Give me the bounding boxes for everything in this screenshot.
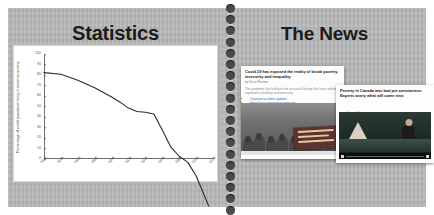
chart-y-tick: 10 <box>37 147 44 151</box>
slide-statistics: Statistics Percentage of world populatio… <box>8 8 223 207</box>
binding-hole <box>226 4 235 13</box>
binding-hole <box>226 105 235 114</box>
binding-hole <box>226 15 235 24</box>
protest-crowd-photo <box>241 103 344 155</box>
chart-x-tick: 2020 <box>209 157 217 165</box>
news-clipping-poverty[interactable]: Covid-19 has exposed the reality of brut… <box>241 66 344 159</box>
protest-banner <box>293 126 338 150</box>
binding-hole <box>226 26 235 35</box>
chart-y-tick: 60 <box>37 94 44 98</box>
photo-caption <box>241 151 344 155</box>
chart-y-tick: 20 <box>37 136 44 140</box>
binding-hole <box>226 172 235 181</box>
binding-hole <box>226 127 235 136</box>
chart-y-tick: 90 <box>37 63 44 67</box>
anchor-desk <box>339 139 431 152</box>
page-title-statistics: Statistics <box>8 22 223 45</box>
chart-line-series <box>44 54 213 215</box>
binding-hole <box>226 71 235 80</box>
chart-y-tick: 40 <box>37 115 44 119</box>
binding-hole <box>226 161 235 170</box>
news-anchor-video[interactable] <box>339 112 431 159</box>
chart-y-tick: 50 <box>37 105 44 109</box>
article-byline: by Kevin Farmer <box>245 81 340 85</box>
binding-hole <box>226 82 235 91</box>
video-player-controls[interactable] <box>339 153 431 159</box>
slide-the-news: The News Covid-19 has exposed the realit… <box>223 8 426 207</box>
chart-y-axis-label: Percentage of world population living in… <box>16 75 21 153</box>
chart-y-tick: 100 <box>35 52 44 56</box>
article-body: The pandemic has laid bare the structura… <box>245 87 340 95</box>
page-title-the-news: The News <box>223 23 426 45</box>
binding-hole <box>226 60 235 69</box>
binding-hole <box>226 206 235 215</box>
chart-y-tick: 70 <box>37 84 44 88</box>
binding-hole <box>226 38 235 47</box>
binding-hole <box>226 194 235 203</box>
chart-y-tick: 30 <box>37 126 44 130</box>
binding-hole <box>226 94 235 103</box>
chart-card: Percentage of world population living in… <box>14 46 217 181</box>
tripod-shape <box>349 122 367 139</box>
fullscreen-icon[interactable] <box>426 155 429 158</box>
video-progress-bar[interactable] <box>346 156 424 157</box>
binding-hole <box>226 138 235 147</box>
news-clipping-canada[interactable]: Poverty in Canada was bad pre-coronaviru… <box>336 85 434 163</box>
binding-hole <box>226 49 235 58</box>
notebook-spread: Statistics Percentage of world populatio… <box>0 0 434 215</box>
binding-hole <box>226 150 235 159</box>
spiral-binding-icon <box>223 0 239 215</box>
binding-hole <box>226 183 235 192</box>
article-headline: Covid-19 has exposed the reality of brut… <box>245 69 340 79</box>
binding-hole <box>226 116 235 125</box>
play-icon[interactable] <box>341 155 344 158</box>
chart-plot-area: 0102030405060708090100182018401860188019… <box>44 54 213 159</box>
article-headline: Poverty in Canada was bad pre-coronaviru… <box>340 88 430 98</box>
chart-y-tick: 80 <box>37 73 44 77</box>
